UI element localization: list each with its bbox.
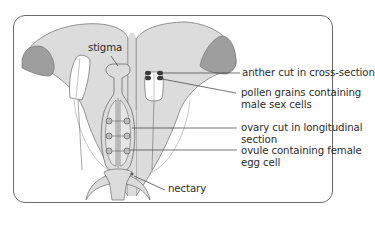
label-pollen-line1: pollen grains containing bbox=[241, 87, 361, 99]
label-ovary-line2: section bbox=[241, 134, 277, 146]
pollen-sac bbox=[145, 71, 151, 76]
label-ovule-line1: ovule containing female bbox=[241, 145, 362, 157]
label-stigma: stigma bbox=[88, 42, 122, 54]
label-pollen-line2: male sex cells bbox=[241, 99, 312, 111]
label-nectary: nectary bbox=[168, 183, 206, 195]
nectary-spot bbox=[131, 173, 134, 176]
left-sepal bbox=[86, 176, 110, 200]
label-anther: anther cut in cross-section bbox=[242, 67, 375, 79]
label-ovule-line2: egg cell bbox=[241, 157, 280, 169]
label-ovary-line1: ovary cut in longitudinal bbox=[241, 122, 362, 134]
